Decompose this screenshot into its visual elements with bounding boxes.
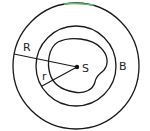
outer-circle-top-accent <box>64 3 94 5</box>
label-S: S <box>82 62 89 75</box>
label-R: R <box>23 41 31 54</box>
label-B: B <box>119 60 127 73</box>
label-r: r <box>42 70 47 83</box>
center-point <box>75 65 79 69</box>
radius-r-line <box>42 67 77 86</box>
concentric-circles-diagram: R r S B <box>0 0 150 131</box>
radius-R-line <box>14 54 77 67</box>
